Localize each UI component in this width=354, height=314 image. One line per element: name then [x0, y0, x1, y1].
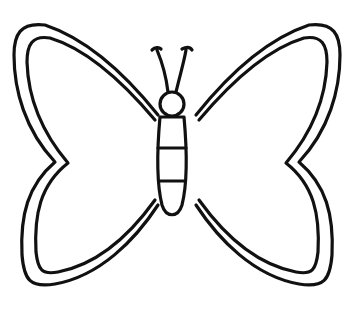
butterfly-drawing: [0, 0, 354, 314]
left-wing-inner: [27, 37, 155, 272]
butterfly-body: [158, 117, 186, 215]
left-antenna: [152, 48, 168, 92]
butterfly-illustration: [0, 0, 354, 314]
butterfly-head: [160, 92, 184, 116]
right-antenna: [176, 48, 192, 92]
right-wing-inner: [199, 37, 327, 272]
